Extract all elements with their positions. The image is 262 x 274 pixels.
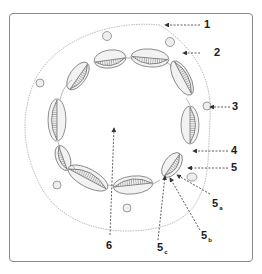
vascular-bundle (48, 99, 66, 141)
small-cell (103, 32, 112, 41)
vascular-bundle (64, 160, 111, 197)
label-5b: 5b (201, 230, 212, 243)
small-cell (53, 181, 61, 189)
small-cell (187, 173, 197, 181)
label-5: 5 (231, 162, 237, 173)
small-cell (166, 38, 175, 47)
small-cell (123, 204, 131, 212)
label-1: 1 (204, 19, 210, 30)
vascular-bundle (166, 57, 198, 98)
vascular-bundle-labelled (157, 149, 186, 181)
vascular-bundle (62, 58, 93, 93)
small-cell (36, 79, 44, 87)
vascular-bundle (93, 48, 127, 70)
vascular-bundle (112, 174, 154, 196)
vascular-bundle (130, 47, 169, 68)
label-5c: 5c (157, 242, 167, 255)
label-3: 3 (232, 101, 238, 112)
label-5a: 5a (212, 198, 222, 211)
small-cell (203, 102, 211, 110)
label-2: 2 (214, 47, 220, 58)
vascular-bundle (181, 106, 199, 144)
label-6: 6 (106, 240, 112, 251)
label-4: 4 (231, 145, 237, 156)
vascular-bundles (48, 47, 199, 196)
stem-cross-section (0, 0, 262, 274)
